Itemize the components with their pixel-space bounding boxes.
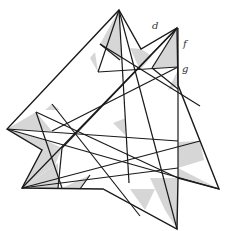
label-f: f (183, 38, 187, 49)
shaded-region (113, 118, 126, 135)
chord-line (100, 44, 200, 106)
label-d: d (152, 20, 158, 31)
shaded-region (130, 48, 152, 70)
shaded-region (178, 141, 204, 168)
shaded-region (178, 168, 219, 189)
star-polygon-figure (0, 0, 225, 231)
chord-line (52, 67, 178, 131)
shaded-region (90, 52, 98, 72)
geometric-diagram: d f g (0, 0, 225, 231)
shaded-region (130, 189, 155, 210)
label-g: g (182, 63, 188, 74)
